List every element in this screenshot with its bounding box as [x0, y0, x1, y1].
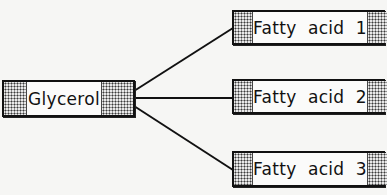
hatched-end-left: [234, 12, 253, 43]
fatty-acid-3-label: Fatty acid 3: [253, 153, 367, 185]
glycerol-label: Glycerol: [27, 82, 101, 115]
glycerol-box: Glycerol: [2, 80, 135, 117]
hatched-end-right: [101, 82, 133, 115]
fatty-acid-1-label: Fatty acid 1: [253, 12, 367, 43]
hatched-end-right: [367, 153, 387, 185]
edge-glycerol-fatty-acid-3: [134, 106, 233, 170]
hatched-end-left: [234, 153, 253, 185]
diagram-canvas: Glycerol Fatty acid 1 Fatty acid 2 Fatty…: [0, 0, 387, 195]
fatty-acid-1-box: Fatty acid 1: [232, 10, 385, 45]
fatty-acid-2-label: Fatty acid 2: [253, 81, 367, 112]
fatty-acid-2-box: Fatty acid 2: [232, 79, 385, 114]
hatched-end-right: [367, 81, 387, 112]
hatched-end-left: [4, 82, 27, 115]
fatty-acid-3-box: Fatty acid 3: [232, 151, 385, 187]
hatched-end-left: [234, 81, 253, 112]
hatched-end-right: [367, 12, 387, 43]
edge-glycerol-fatty-acid-1: [134, 28, 233, 91]
